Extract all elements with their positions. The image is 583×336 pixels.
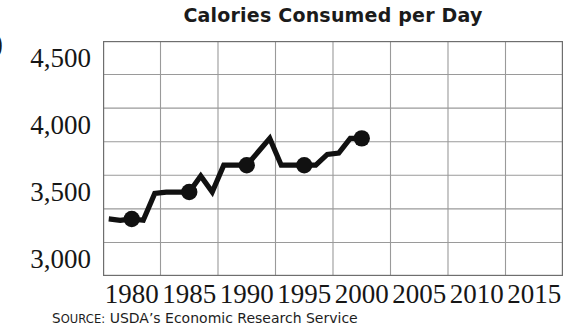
data-point-marker xyxy=(239,157,255,173)
source-note: SOURCE: USDA’s Economic Research Service xyxy=(52,310,358,328)
x-axis-tick-label: 1980 xyxy=(100,279,164,309)
data-point-marker xyxy=(181,184,197,200)
x-axis-labels: 19801985199019952000200520102015 xyxy=(103,279,583,311)
source-label-rest: OURCE: xyxy=(61,312,106,326)
y-axis-tick-label: 4,000 xyxy=(30,112,91,139)
y-axis-labels: 4,5004,0003,5003,000 xyxy=(0,41,97,276)
x-axis-tick-label: 2015 xyxy=(502,279,566,309)
x-axis-tick-label: 2005 xyxy=(387,279,451,309)
y-axis-tick-label: 3,500 xyxy=(30,179,91,206)
data-line xyxy=(109,138,362,220)
x-axis-tick-label: 2010 xyxy=(445,279,509,309)
vertical-gridlines xyxy=(161,41,506,276)
y-axis-tick-label: 4,500 xyxy=(30,45,91,72)
source-text: USDA’s Economic Research Service xyxy=(110,310,358,326)
source-label: SOURCE: xyxy=(52,312,105,326)
x-axis-tick-label: 1990 xyxy=(215,279,279,309)
plot-area xyxy=(103,41,563,276)
source-label-capital: S xyxy=(52,310,61,326)
y-axis-tick-label: 3,000 xyxy=(30,246,91,273)
line-chart-svg xyxy=(103,41,563,276)
chart-title: Calories Consumed per Day xyxy=(103,0,563,30)
data-point-marker xyxy=(354,130,370,146)
data-point-marker xyxy=(296,157,312,173)
x-axis-tick-label: 2000 xyxy=(330,279,394,309)
figure-container: ) Calories Consumed per Day 4,5004,0003,… xyxy=(0,0,583,336)
x-axis-tick-label: 1985 xyxy=(157,279,221,309)
data-point-marker xyxy=(124,211,140,227)
x-axis-tick-label: 1995 xyxy=(272,279,336,309)
